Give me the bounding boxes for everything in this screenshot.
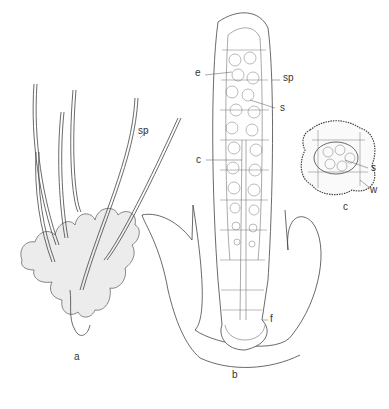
label-b-f: f (270, 314, 273, 324)
label-b-s: s (280, 103, 285, 113)
label-c-w: w (370, 185, 377, 195)
panel-a-drawing (21, 84, 181, 335)
label-panel-a: a (74, 352, 80, 362)
label-panel-b: b (232, 370, 238, 380)
label-panel-c: c (343, 202, 348, 212)
label-b-e: e (195, 68, 201, 78)
label-c-s: s (371, 163, 376, 173)
label-b-sp: sp (283, 73, 294, 83)
panel-c-drawing (301, 121, 375, 195)
label-b-c: c (196, 155, 201, 165)
panel-b-drawing (142, 13, 321, 368)
label-a-sp: sp (138, 126, 149, 136)
botanical-illustration (0, 0, 389, 409)
